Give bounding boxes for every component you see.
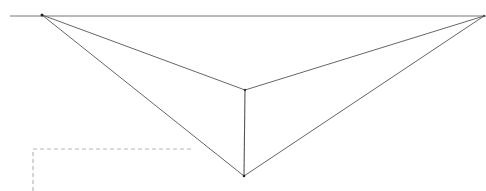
- dashed-selection-outline: [33, 149, 194, 191]
- right-vanishing-point: [483, 15, 485, 17]
- right-top-convergence-line: [245, 16, 484, 90]
- left-vanishing-point: [41, 14, 44, 17]
- box-top-vertex: [244, 89, 246, 91]
- right-bottom-convergence-line: [244, 16, 484, 176]
- left-bottom-convergence-line: [42, 15, 244, 176]
- vertical-box-edge: [244, 90, 245, 176]
- perspective-drawing: [0, 0, 486, 191]
- box-bottom-vertex: [243, 175, 246, 178]
- left-top-convergence-line: [42, 15, 245, 90]
